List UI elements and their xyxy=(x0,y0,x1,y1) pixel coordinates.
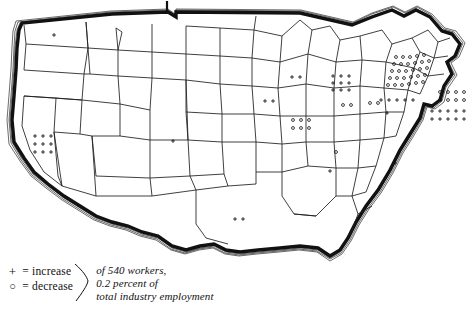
legend-row-increase: + = increase xyxy=(6,265,73,278)
legend-note-line-1: of 540 workers, xyxy=(96,264,213,277)
legend-row-decrease: ○ = decrease xyxy=(6,280,73,293)
legend-note-line-2: 0.2 percent of xyxy=(96,277,213,290)
legend-label-increase: increase xyxy=(32,265,71,278)
legend-key-list: + = increase ○ = decrease xyxy=(6,263,73,293)
legend-label-decrease: decrease xyxy=(32,280,73,293)
legend-note: of 540 workers, 0.2 percent of total ind… xyxy=(96,263,213,303)
us-employment-change-map: .coast{fill:none;stroke:#111;stroke-widt… xyxy=(0,0,473,311)
legend-note-line-3: total industry employment xyxy=(96,290,213,303)
map-legend: + = increase ○ = decrease of 540 workers… xyxy=(6,263,214,303)
legend-equals-decrease: = xyxy=(19,280,32,293)
legend-equals-increase: = xyxy=(19,265,32,278)
symbol-group-new-england-plus xyxy=(430,109,466,121)
plus-sign-icon: + xyxy=(6,265,19,278)
legend-brace-icon xyxy=(74,262,91,302)
open-circle-icon: ○ xyxy=(6,280,19,293)
